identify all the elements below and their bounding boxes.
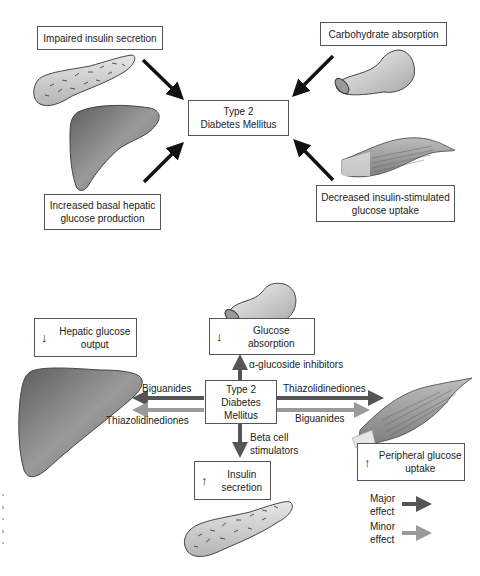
hepatic-glucose-output-box: ↓ Hepatic glucose output bbox=[34, 318, 137, 357]
peripheral-uptake-line1: Peripheral glucose bbox=[377, 449, 465, 462]
center-bottom-line2: Diabetes bbox=[221, 396, 260, 409]
down-arrow-icon: ↓ bbox=[41, 331, 48, 344]
legend-major-line1: Major bbox=[370, 492, 395, 505]
margin-marks bbox=[2, 494, 4, 544]
hepatic-output-line1: Hepatic glucose bbox=[54, 325, 137, 338]
peripheral-uptake-line2: uptake bbox=[377, 462, 465, 475]
down-arrow-icon: ↓ bbox=[216, 330, 223, 343]
insulin-secretion-line1: Insulin bbox=[214, 468, 271, 481]
up-arrow-icon: ↑ bbox=[201, 474, 208, 487]
pancreas-illustration-bottom bbox=[184, 502, 292, 557]
glucose-uptake-line2: glucose uptake bbox=[352, 204, 419, 217]
impaired-insulin-secretion-box: Impaired insulin secretion bbox=[37, 26, 163, 50]
legend-minor-line1: Minor bbox=[370, 520, 395, 533]
hepatic-production-line2: glucose production bbox=[61, 212, 145, 225]
biguanides-left-label: Biguanides bbox=[142, 383, 191, 395]
up-arrow-icon: ↑ bbox=[364, 456, 371, 469]
arrow-muscle-to-center bbox=[298, 144, 333, 180]
arrow-liver-to-center bbox=[144, 147, 179, 182]
type2-diabetes-box-top: Type 2 Diabetes Mellitus bbox=[188, 100, 289, 136]
center-bottom-line1: Type 2 bbox=[226, 383, 256, 396]
legend-major-label: Major effect bbox=[370, 492, 395, 518]
intestine-illustration-top bbox=[332, 50, 414, 96]
insulin-secretion-box: ↑ Insulin secretion bbox=[194, 461, 271, 500]
glucose-absorption-label: Glucose absorption bbox=[229, 324, 315, 350]
beta-cell-stimulators-label: Beta cell stimulators bbox=[250, 431, 298, 457]
glucose-uptake-line1: Decreased insulin-stimulated bbox=[321, 191, 449, 204]
pancreas-illustration-top bbox=[34, 55, 135, 106]
carbohydrate-absorption-box: Carbohydrate absorption bbox=[320, 22, 447, 46]
arrow-pancreas-to-center bbox=[143, 60, 179, 95]
carbohydrate-absorption-label: Carbohydrate absorption bbox=[328, 28, 438, 41]
center-title-line2: Diabetes Mellitus bbox=[200, 118, 276, 131]
hepatic-production-line1: Increased basal hepatic bbox=[50, 199, 156, 212]
center-bottom-line3: Mellitus bbox=[224, 409, 258, 422]
hepatic-output-line2: output bbox=[54, 338, 137, 351]
legend-minor-label: Minor effect bbox=[370, 520, 395, 546]
muscle-illustration-bottom bbox=[352, 378, 472, 448]
alpha-glucosidase-label: α-glucoside inhibitors bbox=[249, 359, 343, 371]
legend-major-line2: effect bbox=[370, 505, 395, 518]
liver-illustration-top bbox=[70, 105, 159, 190]
increased-hepatic-glucose-box: Increased basal hepatic glucose producti… bbox=[44, 194, 161, 230]
biguanides-right-label: Biguanides bbox=[295, 413, 344, 425]
decreased-glucose-uptake-box: Decreased insulin-stimulated glucose upt… bbox=[316, 185, 455, 222]
diabetes-diagram: Impaired insulin secretion Carbohydrate … bbox=[0, 0, 480, 576]
type2-diabetes-box-bottom: Type 2 Diabetes Mellitus bbox=[205, 380, 277, 424]
center-title-line1: Type 2 bbox=[223, 105, 253, 118]
arrow-intestine-to-center bbox=[297, 56, 333, 92]
muscle-illustration-top bbox=[342, 138, 455, 177]
insulin-secretion-line2: secretion bbox=[214, 481, 271, 494]
impaired-insulin-secretion-label: Impaired insulin secretion bbox=[43, 32, 156, 45]
thiazolidinediones-left-label: Thiazolidinediones bbox=[106, 415, 189, 427]
legend-minor-line2: effect bbox=[370, 533, 395, 546]
peripheral-glucose-uptake-box: ↑ Peripheral glucose uptake bbox=[357, 443, 465, 481]
beta-cell-line2: stimulators bbox=[250, 444, 298, 457]
beta-cell-line1: Beta cell bbox=[250, 431, 298, 444]
glucose-absorption-box: ↓ Glucose absorption bbox=[209, 318, 315, 355]
thiazolidinediones-right-label: Thiazolidinediones bbox=[283, 383, 366, 395]
